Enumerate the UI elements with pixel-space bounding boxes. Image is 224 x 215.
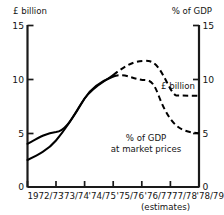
left-tick-label-0: 0 (18, 181, 24, 192)
left-tick-label-10: 10 (12, 74, 24, 85)
series-label-pounds-billion: £ billion (161, 81, 195, 91)
x-tick-label-73-74: '73/74 (62, 191, 90, 201)
chart-container: £ billion % of GDP 15 10 5 0 15 10 5 0 1… (0, 0, 224, 215)
right-tick-label-15: 15 (203, 20, 215, 31)
left-axis-title: £ billion (13, 6, 47, 16)
series-pounds-billion-solid (28, 75, 114, 144)
right-axis-title: % of GDP (172, 6, 212, 16)
x-tick-label-77-78: '77/78 (170, 191, 197, 201)
right-tick-label-10: 10 (203, 74, 215, 85)
x-tick-label-75-76: '75/76 (117, 191, 144, 201)
x-tick-label-78-79: '78/79 (197, 191, 224, 201)
estimates-note: (estimates) (141, 202, 190, 212)
series-label-gdp-percent-line1: % of GDP (126, 133, 166, 143)
left-tick-label-15: 15 (12, 20, 24, 31)
right-tick-label-5: 5 (203, 128, 209, 139)
series-label-gdp-percent-line2: at market prices (111, 144, 182, 154)
x-tick-label-74-75: '74/75 (89, 191, 116, 201)
series-gdp-percent-solid (28, 77, 114, 161)
x-tick-label-1972-73: 1972/73 (28, 191, 64, 201)
x-tick-label-76-77: '76/77 (145, 191, 172, 201)
expenditure-line-chart: £ billion % of GDP 15 10 5 0 15 10 5 0 1… (0, 0, 224, 215)
left-tick-label-5: 5 (18, 128, 24, 139)
